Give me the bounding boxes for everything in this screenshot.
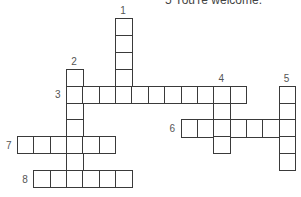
crossword-cell[interactable] — [115, 69, 133, 87]
crossword-cell[interactable] — [230, 119, 248, 137]
crossword-cell[interactable] — [197, 119, 215, 137]
crossword-cell[interactable] — [213, 103, 231, 121]
crossword-cell[interactable] — [148, 86, 166, 104]
crossword-cell[interactable] — [115, 170, 133, 188]
crossword-cell[interactable] — [115, 18, 133, 36]
crossword-cell[interactable] — [99, 86, 117, 104]
clue-number-1: 1 — [120, 6, 126, 16]
crossword-cell[interactable] — [279, 136, 297, 154]
crossword-cell[interactable] — [82, 136, 100, 154]
clue-number-3: 3 — [55, 90, 61, 100]
crossword-cell[interactable] — [197, 86, 215, 104]
crossword-cell[interactable] — [279, 103, 297, 121]
crossword-cell[interactable] — [66, 119, 84, 137]
clue-number-5: 5 — [284, 74, 290, 84]
crossword-cell[interactable] — [66, 103, 84, 121]
crossword-cell[interactable] — [50, 170, 68, 188]
clue-number-8: 8 — [22, 175, 28, 185]
clue-number-4: 4 — [218, 74, 224, 84]
crossword-cell[interactable] — [33, 136, 51, 154]
crossword-cell[interactable] — [33, 170, 51, 188]
clue-number-7: 7 — [6, 141, 12, 151]
crossword-grid: 5 You're welcome. 12345678 — [0, 0, 301, 197]
crossword-cell[interactable] — [131, 86, 149, 104]
crossword-cell[interactable] — [115, 86, 133, 104]
crossword-cell[interactable] — [213, 119, 231, 137]
clue-number-6: 6 — [170, 124, 176, 134]
crossword-cell[interactable] — [230, 86, 248, 104]
crossword-cell[interactable] — [181, 119, 199, 137]
crossword-cell[interactable] — [164, 86, 182, 104]
crossword-cell[interactable] — [66, 86, 84, 104]
crossword-cell[interactable] — [99, 136, 117, 154]
clue-number-2: 2 — [71, 57, 77, 67]
crossword-cell[interactable] — [66, 69, 84, 87]
clue-5-text: 5 You're welcome. — [165, 0, 262, 7]
crossword-cell[interactable] — [213, 136, 231, 154]
crossword-cell[interactable] — [66, 136, 84, 154]
crossword-cell[interactable] — [17, 136, 35, 154]
crossword-cell[interactable] — [82, 86, 100, 104]
crossword-cell[interactable] — [115, 35, 133, 53]
crossword-cell[interactable] — [279, 119, 297, 137]
crossword-cell[interactable] — [279, 153, 297, 171]
crossword-cell[interactable] — [246, 119, 264, 137]
crossword-cell[interactable] — [99, 170, 117, 188]
crossword-cell[interactable] — [262, 119, 280, 137]
crossword-cell[interactable] — [115, 52, 133, 70]
crossword-cell[interactable] — [66, 153, 84, 171]
crossword-cell[interactable] — [213, 86, 231, 104]
crossword-cell[interactable] — [66, 170, 84, 188]
crossword-cell[interactable] — [181, 86, 199, 104]
crossword-cell[interactable] — [279, 86, 297, 104]
crossword-cell[interactable] — [50, 136, 68, 154]
crossword-cell[interactable] — [82, 170, 100, 188]
